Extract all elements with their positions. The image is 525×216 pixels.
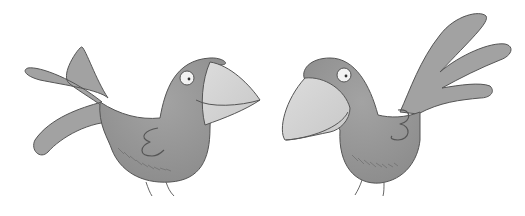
left-bird bbox=[25, 47, 260, 196]
illustration-canvas bbox=[0, 0, 525, 216]
right-bird bbox=[282, 14, 511, 196]
two-birds-illustration bbox=[0, 0, 525, 216]
left-bird-legs bbox=[146, 182, 174, 196]
right-bird-eye bbox=[337, 68, 351, 82]
right-bird-pupil bbox=[345, 75, 348, 78]
left-bird-pupil bbox=[188, 78, 191, 81]
left-bird-tail bbox=[25, 47, 118, 155]
left-bird-beak bbox=[202, 62, 260, 125]
left-bird-eye bbox=[180, 71, 194, 85]
right-bird-tail bbox=[400, 14, 511, 114]
